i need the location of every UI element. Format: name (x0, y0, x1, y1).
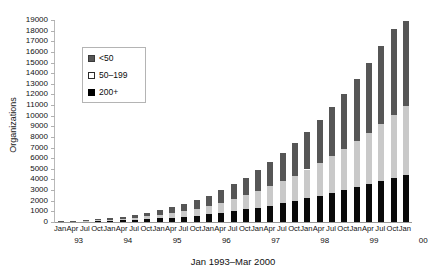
bar-segment (169, 213, 175, 218)
x-tick-year: 93 (69, 236, 89, 245)
bar-segment (292, 143, 298, 176)
bar-segment (144, 213, 150, 217)
y-tick-label: 8000 (2, 133, 48, 141)
bar-segment (194, 209, 200, 216)
x-axis-year-labels: 9394959697989900 (54, 236, 412, 247)
legend-swatch-large-icon (88, 89, 95, 96)
bar-segment (95, 219, 101, 220)
x-tick-year: 96 (216, 236, 236, 245)
bar-segment (317, 196, 323, 222)
y-tick-label: 13000 (2, 80, 48, 88)
bar-segment (107, 221, 113, 222)
bar-column (378, 20, 384, 222)
bar-segment (144, 219, 150, 222)
bar-segment (329, 156, 335, 193)
y-tick-label: 7000 (2, 144, 48, 152)
bar-segment (317, 120, 323, 163)
bar-segment (169, 218, 175, 222)
bar-segment (378, 46, 384, 124)
x-tick-year: 94 (118, 236, 138, 245)
y-tick-label: 5000 (2, 165, 48, 173)
legend-label-mid: 50–199 (99, 71, 127, 80)
bar-column (70, 20, 76, 222)
bar-column (366, 20, 372, 222)
bar-segment (354, 187, 360, 222)
bar-segment (58, 221, 64, 222)
bar-segment (391, 29, 397, 116)
bar-segment (107, 220, 113, 221)
y-tick-label: 19000 (2, 16, 48, 24)
bar-segment (378, 181, 384, 222)
bar-segment (194, 200, 200, 209)
bar-segment (304, 132, 310, 170)
bar-segment (267, 162, 273, 186)
bar-segment (391, 178, 397, 222)
bar-segment (329, 193, 335, 222)
bar-segment (280, 203, 286, 222)
bar-segment (403, 106, 409, 175)
bar-segment (255, 170, 261, 191)
bar-segment (132, 218, 138, 220)
x-axis-line (54, 222, 412, 223)
bar-column (317, 20, 323, 222)
bar-column (58, 20, 64, 222)
bar-segment (317, 163, 323, 196)
bar-column (181, 20, 187, 222)
bar-segment (255, 208, 261, 222)
bar-segment (107, 218, 113, 220)
bar-segment (378, 124, 384, 181)
bar-segment (206, 196, 212, 206)
bar-segment (341, 149, 347, 190)
bar-segment (267, 206, 273, 222)
bar-segment (267, 186, 273, 205)
bar-segment (218, 190, 224, 202)
bar-column (231, 20, 237, 222)
y-tick-label: 11000 (2, 101, 48, 109)
bar-column (243, 20, 249, 222)
x-axis-title: Jan 1993–Mar 2000 (54, 256, 412, 267)
bar-column (304, 20, 310, 222)
bar-segment (366, 184, 372, 222)
bar-segment (120, 220, 126, 222)
legend-item-mid: 50–199 (88, 69, 127, 81)
bar-segment (243, 195, 249, 209)
x-tick-month: Jan (396, 224, 414, 233)
x-tick-year: 99 (364, 236, 384, 245)
bar-segment (280, 153, 286, 181)
bar-segment (354, 141, 360, 187)
bar-segment (144, 216, 150, 219)
bar-segment (280, 181, 286, 203)
bar-segment (95, 220, 101, 221)
bar-segment (391, 115, 397, 177)
bar-segment (206, 206, 212, 214)
bar-column (403, 20, 409, 222)
legend-swatch-small-icon (88, 55, 95, 62)
bar-segment (292, 201, 298, 222)
bar-column (354, 20, 360, 222)
y-tick-label: 14000 (2, 69, 48, 77)
x-tick-year: 97 (266, 236, 286, 245)
bar-segment (181, 204, 187, 211)
bar-segment (366, 133, 372, 184)
bar-column (255, 20, 261, 222)
bar-segment (403, 175, 409, 222)
y-tick-label: 4000 (2, 175, 48, 183)
legend-item-large: 200+ (88, 86, 118, 98)
y-tick-label: 3000 (2, 186, 48, 194)
bar-column (194, 20, 200, 222)
legend-label-large: 200+ (99, 88, 118, 97)
bar-segment (304, 198, 310, 222)
bar-segment (255, 191, 261, 208)
bar-segment (304, 170, 310, 199)
bar-segment (83, 221, 89, 222)
bar-segment (341, 94, 347, 149)
x-tick-year: 98 (315, 236, 335, 245)
bar-segment (366, 63, 372, 133)
bar-segment (157, 215, 163, 219)
bar-segment (83, 220, 89, 221)
bar-segment (206, 214, 212, 222)
bar-segment (231, 211, 237, 222)
bar-column (341, 20, 347, 222)
x-tick-year: 00 (413, 236, 432, 245)
